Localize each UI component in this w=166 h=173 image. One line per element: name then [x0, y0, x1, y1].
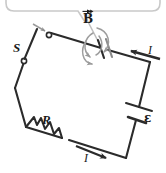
- switch-contact-terminal: [46, 32, 51, 37]
- wire-left-upper-segment: [15, 62, 24, 88]
- switch-motion-arrow-icon: [33, 24, 45, 31]
- wire-top-left-segment: [51, 33, 101, 48]
- wire-left-lower-segment: [15, 88, 26, 127]
- capacitor-component: [98, 39, 112, 58]
- current-label-bottom: I: [84, 152, 88, 164]
- switch-component[interactable]: [21, 24, 51, 64]
- current-label-top: I: [148, 44, 152, 56]
- vector-arrow-icon: [82, 8, 94, 13]
- wire-right-lower-segment: [126, 120, 136, 158]
- resistor-label: R: [42, 113, 51, 126]
- wire-right-upper-segment: [139, 62, 150, 107]
- emf-label: ε: [144, 112, 151, 124]
- magnetic-field-label-group: B: [83, 13, 93, 25]
- switch-blade[interactable]: [25, 29, 38, 59]
- circuit-diagram-figure: S R ε B I I: [0, 0, 166, 173]
- wire-top-right-segment: [108, 50, 150, 62]
- magnetic-field-label: B: [83, 12, 93, 26]
- switch-label: S: [13, 41, 20, 54]
